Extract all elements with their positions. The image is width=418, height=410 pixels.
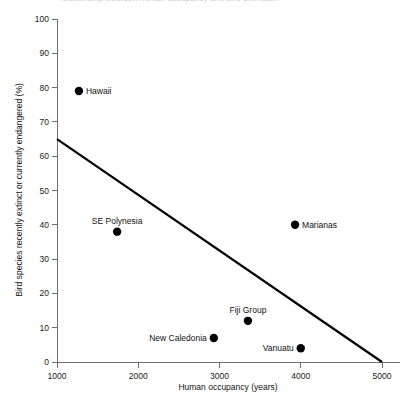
data-point[interactable] [297, 344, 305, 352]
y-tick-label: 0 [44, 357, 49, 367]
y-axis-title: Bird species recently extinct or current… [14, 83, 24, 297]
data-point-label: Fiji Group [230, 305, 267, 315]
y-tick-label: 100 [35, 14, 49, 24]
x-tick-label: 4000 [291, 371, 310, 381]
y-tick-label: 60 [40, 151, 50, 161]
scatter-chart-figure: relationship between human occupancy and… [0, 0, 418, 410]
y-tick-label: 70 [40, 117, 50, 127]
data-point-label: SE Polynesia [92, 216, 143, 226]
y-tick-label: 40 [40, 220, 50, 230]
data-point-label: Vanuatu [263, 343, 294, 353]
data-point[interactable] [75, 87, 83, 95]
data-point[interactable] [210, 334, 218, 342]
x-tick-label: 3000 [210, 371, 229, 381]
data-point[interactable] [244, 317, 252, 325]
y-tick-label: 80 [40, 83, 50, 93]
data-points-group: HawaiiSE PolynesiaMarianasFiji GroupNew … [75, 86, 337, 353]
y-tick-label: 20 [40, 288, 50, 298]
data-point-label: New Caledonia [149, 333, 207, 343]
data-point-label: Hawaii [86, 86, 112, 96]
y-axis-ticks: 0102030405060708090100 [35, 14, 57, 367]
regression-trend-line [57, 139, 382, 362]
data-point-label: Marianas [302, 220, 337, 230]
x-axis-title: Human occupancy (years) [178, 382, 277, 392]
data-point[interactable] [291, 221, 299, 229]
chart-plot-area: 0102030405060708090100 10002000300040005… [0, 0, 418, 410]
x-tick-label: 5000 [373, 371, 392, 381]
y-tick-label: 90 [40, 48, 50, 58]
y-tick-label: 30 [40, 254, 50, 264]
x-tick-label: 2000 [129, 371, 148, 381]
trend-line-group [57, 139, 382, 362]
data-point[interactable] [113, 227, 121, 235]
y-tick-label: 50 [40, 186, 50, 196]
x-tick-label: 1000 [48, 371, 67, 381]
x-axis-ticks: 10002000300040005000 [48, 362, 392, 381]
y-tick-label: 10 [40, 323, 50, 333]
